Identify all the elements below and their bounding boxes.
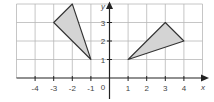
coordinate-grid-diagram: -4 -3 -2 -1 0 1 2 3 4 x 1 2 3 y [0, 0, 214, 102]
x-tick-label: -3 [50, 84, 58, 93]
y-tick-label: 1 [101, 56, 106, 65]
x-tick-label: 1 [126, 84, 131, 93]
origin-label: 0 [101, 83, 106, 92]
x-tick-label: -2 [69, 84, 77, 93]
y-tick-label: 2 [101, 37, 106, 46]
x-tick-label: -4 [32, 84, 40, 93]
x-tick-label: 3 [163, 84, 168, 93]
y-axis-arrow-icon [106, 2, 113, 10]
x-tick-label: 4 [182, 84, 187, 93]
x-axis-label: x [200, 83, 206, 92]
y-tick-label: 3 [101, 19, 106, 28]
x-tick-label: -1 [87, 84, 95, 93]
x-axis-arrow-icon [201, 75, 209, 82]
y-axis-label: y [100, 2, 106, 11]
x-tick-label: 2 [144, 84, 149, 93]
